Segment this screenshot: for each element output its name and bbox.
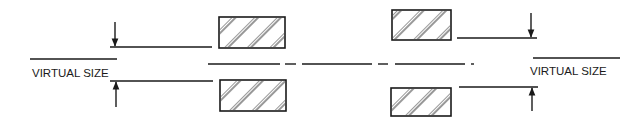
left-virtual-size-group: VIRTUAL SIZE <box>30 22 213 107</box>
right-top-hatch <box>393 11 450 39</box>
left-virtual-size-label: VIRTUAL SIZE <box>32 67 109 79</box>
right-bottom-hatch <box>392 89 450 115</box>
virtual-size-diagram: VIRTUAL SIZE VIRTUAL SIZE <box>0 0 644 123</box>
left-top-hatch <box>220 18 284 47</box>
right-virtual-size-label: VIRTUAL SIZE <box>530 65 607 77</box>
left-bottom-hatch <box>221 81 285 110</box>
right-virtual-size-group: VIRTUAL SIZE <box>457 13 620 111</box>
